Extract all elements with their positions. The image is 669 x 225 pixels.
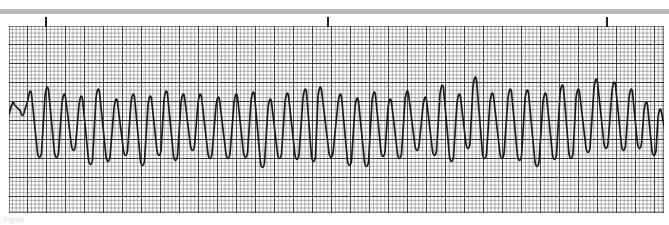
figure-caption: Figure bbox=[4, 216, 24, 223]
ecg-strip bbox=[9, 26, 664, 213]
strip-top-bar bbox=[0, 9, 669, 14]
